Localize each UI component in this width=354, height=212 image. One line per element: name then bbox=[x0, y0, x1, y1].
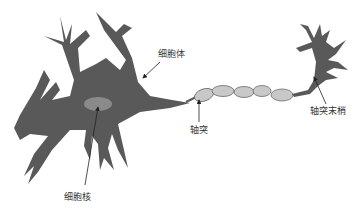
neuron-diagram bbox=[0, 0, 354, 212]
cell-body-arrow bbox=[143, 62, 160, 78]
myelin-sheath bbox=[193, 86, 293, 105]
label-cell-body: 细胞体 bbox=[158, 47, 185, 60]
label-axon: 轴突 bbox=[190, 123, 208, 136]
axon-terminal bbox=[292, 24, 348, 97]
label-nucleus: 细胞核 bbox=[64, 190, 91, 203]
label-axon-terminal: 轴突末梢 bbox=[310, 104, 346, 117]
